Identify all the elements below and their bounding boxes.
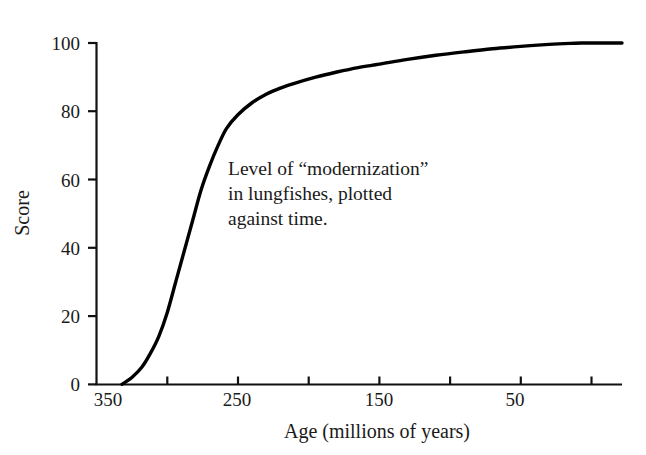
chart-annotation: Level of “modernization” in lungfishes, …: [228, 156, 428, 231]
y-tick-label-80: 80: [28, 102, 80, 121]
x-tick-label-50: 50: [506, 390, 525, 409]
y-axis-title: Score: [12, 190, 32, 236]
annotation-line-1: Level of “modernization”: [228, 156, 428, 181]
lungfish-modernization-chart: 100 80 60 40 20 0 350 250 150 50 Score A…: [0, 0, 646, 455]
y-tick-label-40: 40: [28, 239, 80, 258]
y-tick-label-0: 0: [28, 375, 80, 394]
annotation-line-2: in lungfishes, plotted: [228, 181, 428, 206]
y-axis-ticks: [88, 43, 97, 384]
x-tick-label-250: 250: [223, 390, 252, 409]
annotation-line-3: against time.: [228, 206, 428, 231]
x-axis-title: Age (millions of years): [284, 421, 470, 441]
y-tick-label-100: 100: [28, 34, 80, 53]
x-tick-label-150: 150: [365, 390, 394, 409]
x-axis-ticks: [167, 377, 591, 385]
y-tick-label-60: 60: [28, 171, 80, 190]
x-tick-label-350: 350: [94, 390, 123, 409]
y-tick-label-20: 20: [28, 307, 80, 326]
